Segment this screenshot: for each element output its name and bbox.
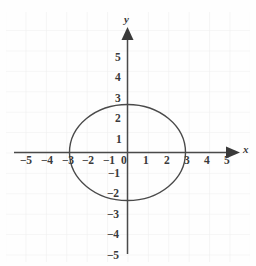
y-tick-label-pos2: 2: [115, 113, 120, 125]
y-tick-label-neg5: −5: [107, 250, 119, 262]
y-tick-label-pos5: 5: [115, 52, 120, 64]
coordinate-plane-figure: −5 −4 −3 −2 −1 0 1 2 3 4 5 5 4 3 2 1 −1 …: [0, 0, 256, 266]
x-axis-label: x: [243, 144, 249, 155]
graph-canvas: [0, 0, 256, 266]
y-tick-label-neg2: −2: [107, 188, 119, 200]
x-tick-label-pos1: 1: [143, 155, 148, 167]
y-tick-label-pos1: 1: [116, 134, 121, 146]
x-tick-label-neg4: −4: [41, 155, 53, 167]
origin-label: 0: [121, 155, 126, 167]
y-axis-label: y: [124, 14, 129, 25]
y-tick-label-neg4: −4: [107, 229, 119, 241]
x-tick-label-pos5: 5: [224, 155, 229, 167]
x-tick-label-neg3: −3: [62, 155, 74, 167]
y-tick-label-neg3: −3: [107, 209, 119, 221]
x-tick-label-neg5: −5: [20, 155, 32, 167]
x-tick-label-neg2: −2: [82, 155, 94, 167]
x-tick-label-pos3: 3: [184, 155, 189, 167]
x-tick-label-pos4: 4: [204, 155, 209, 167]
x-tick-label-pos2: 2: [164, 155, 169, 167]
y-tick-label-pos3: 3: [115, 93, 120, 105]
x-tick-label-neg1: −1: [103, 155, 115, 167]
y-tick-label-pos4: 4: [115, 72, 120, 84]
y-tick-label-neg1: −1: [108, 168, 120, 180]
